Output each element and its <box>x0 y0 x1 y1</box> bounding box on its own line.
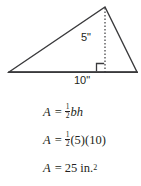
equation-2-lhs: A <box>43 133 51 148</box>
triangle-outline <box>9 7 137 72</box>
equation-2-denominator: 2 <box>65 139 71 148</box>
equation-3-lhs: A <box>43 161 51 176</box>
equation-block: A = 1 2 bh A = 1 2 (5)(10) A = 25 in. 2 <box>0 98 141 182</box>
equation-1-denominator: 2 <box>65 111 71 120</box>
equation-2-numerator: 1 <box>65 131 71 139</box>
equation-1-equals: = <box>55 105 62 120</box>
base-label: 10" <box>74 74 90 86</box>
equation-1-lhs: A <box>43 105 51 120</box>
equation-2-rhs: (5)(10) <box>70 133 105 148</box>
equation-line-3: A = 25 in. 2 <box>0 154 141 182</box>
equation-1-numerator: 1 <box>65 103 71 111</box>
equation-3-equals: = <box>55 161 62 176</box>
equation-2-fraction: 1 2 <box>65 131 71 147</box>
triangle-diagram <box>0 0 141 98</box>
equation-line-1: A = 1 2 bh <box>0 98 141 126</box>
equation-3-rhs: 25 in. <box>65 161 93 176</box>
equation-1-fraction: 1 2 <box>65 103 71 119</box>
equation-1-rhs: bh <box>70 105 83 120</box>
figure-root: 5" 10" A = 1 2 bh A = 1 2 (5)(10) A = 25… <box>0 0 141 186</box>
equation-2-equals: = <box>55 133 62 148</box>
right-angle-marker-icon <box>97 64 105 72</box>
height-label: 5" <box>81 31 91 43</box>
equation-line-2: A = 1 2 (5)(10) <box>0 126 141 154</box>
